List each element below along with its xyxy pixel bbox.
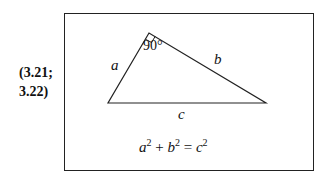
side-b-label: b [214, 51, 222, 68]
side-a-label: a [111, 57, 119, 74]
side-c-label: c [178, 106, 185, 123]
formula-exp-a: 2 [147, 137, 152, 148]
formula-exp-c: 2 [203, 137, 208, 148]
formula-a: a [139, 139, 147, 155]
formula-c: c [196, 139, 203, 155]
formula-equals: = [184, 139, 192, 155]
pythagorean-formula: a2 + b2 = c2 [139, 137, 208, 156]
formula-exp-b: 2 [175, 137, 180, 148]
formula-plus: + [155, 139, 163, 155]
angle-label: 90° [143, 38, 163, 54]
triangle-shape [108, 33, 266, 103]
formula-b: b [167, 139, 175, 155]
